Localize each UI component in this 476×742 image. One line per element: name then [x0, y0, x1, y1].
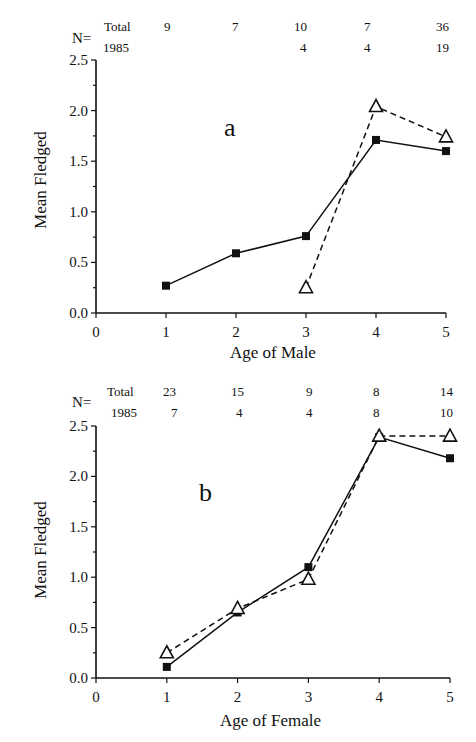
y-tick-label: 2.5: [69, 418, 88, 434]
chart-b-plot: 0.00.51.01.52.02.5012345: [0, 0, 476, 742]
series-line-1985: [167, 436, 450, 653]
y-tick-label: 1.5: [69, 519, 88, 535]
y-tick-label: 0.0: [69, 670, 88, 686]
y-tick-label: 1.0: [69, 569, 88, 585]
x-tick-label: 2: [234, 689, 242, 705]
x-tick-label: 4: [375, 689, 383, 705]
x-tick-label: 3: [305, 689, 313, 705]
square-marker: [446, 454, 454, 462]
triangle-marker: [160, 646, 173, 658]
y-tick-label: 0.5: [69, 620, 88, 636]
figure: N= Total 1985 9 7 10 7 36 4 4 19 a Mean …: [0, 0, 476, 742]
series-line-total: [167, 437, 450, 667]
x-tick-label: 0: [92, 689, 100, 705]
y-tick-label: 2.0: [69, 468, 88, 484]
x-tick-label: 5: [446, 689, 454, 705]
square-marker: [304, 563, 312, 571]
x-tick-label: 1: [163, 689, 171, 705]
triangle-marker: [231, 601, 244, 613]
triangle-marker: [444, 429, 457, 441]
square-marker: [163, 663, 171, 671]
triangle-marker: [373, 429, 386, 441]
triangle-marker: [302, 572, 315, 584]
